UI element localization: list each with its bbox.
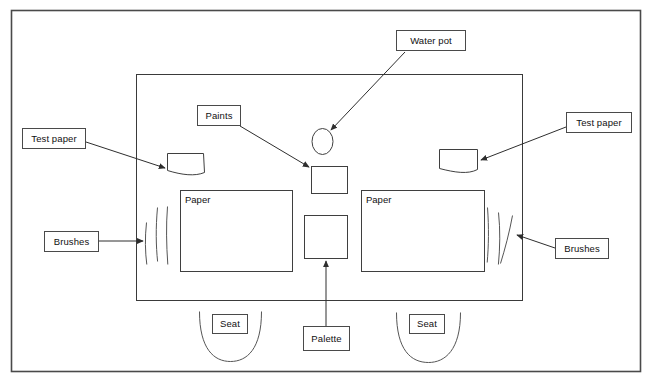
label-brushes-right-text: Brushes: [564, 244, 600, 254]
label-paints-text: Paints: [205, 111, 232, 121]
label-seat-right[interactable]: Seat: [409, 314, 445, 334]
leader-paints: [240, 126, 309, 167]
brushes-right-group: [487, 208, 512, 265]
label-seat-right-text: Seat: [417, 319, 437, 329]
brushes-left-group: [145, 207, 167, 265]
label-paper-right: Paper: [366, 195, 391, 205]
label-brushes-left[interactable]: Brushes: [44, 231, 99, 252]
leader-test-paper-left: [86, 142, 165, 168]
diagram-vector-layer: [0, 0, 651, 382]
label-water-pot[interactable]: Water pot: [396, 30, 466, 51]
label-seat-left-text: Seat: [220, 319, 240, 329]
label-paper-left: Paper: [185, 195, 210, 205]
label-paints[interactable]: Paints: [197, 105, 241, 126]
label-test-paper-right-text: Test paper: [576, 118, 621, 128]
label-brushes-right[interactable]: Brushes: [555, 238, 609, 259]
diagram-canvas: Water pot Paints Test paper Test paper B…: [0, 0, 651, 382]
test-paper-right-shape: [440, 150, 478, 173]
label-test-paper-left[interactable]: Test paper: [22, 128, 86, 149]
leader-test-paper-right: [481, 127, 566, 160]
label-palette-text: Palette: [311, 334, 341, 344]
label-palette[interactable]: Palette: [303, 326, 350, 351]
label-test-paper-left-text: Test paper: [31, 134, 76, 144]
test-paper-left-shape: [168, 154, 205, 175]
palette-square: [305, 216, 348, 259]
paints-square: [312, 167, 348, 194]
label-brushes-left-text: Brushes: [54, 237, 90, 247]
label-water-pot-text: Water pot: [410, 36, 452, 46]
label-paper-left-text: Paper: [185, 194, 210, 205]
label-seat-left[interactable]: Seat: [212, 314, 248, 334]
leader-water-pot: [331, 52, 405, 130]
water-pot-ellipse: [312, 129, 333, 155]
label-test-paper-right[interactable]: Test paper: [566, 112, 632, 133]
label-paper-right-text: Paper: [366, 194, 391, 205]
